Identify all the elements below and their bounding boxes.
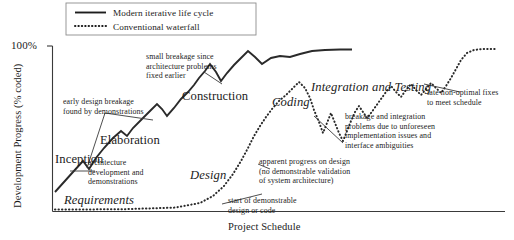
x-axis-title: Project Schedule	[228, 221, 300, 233]
annotation-small-breakage: small breakage since architecture proble…	[146, 52, 217, 81]
annotation-apparent-progress: apparent progress on design (no demonstr…	[259, 157, 350, 186]
y-axis-title: Development Progress (% coded)	[12, 64, 24, 208]
phase-label-integration-and-testing: Integration and Testing	[311, 80, 431, 94]
annotation-late-non-optimal-fixes: late non-optimal fixes to meet schedule	[427, 88, 498, 107]
y-axis-tick-label-100: 100%	[11, 39, 37, 51]
phase-label-requirements: Requirements	[64, 193, 134, 207]
phase-label-elaboration: Elaboration	[100, 133, 160, 147]
annotation-breakage-and-integration: breakage and integration problems due to…	[345, 112, 435, 151]
legend-label-waterfall: Conventional waterfall	[113, 22, 200, 32]
annotation-early-design-breakage: early design breakage found by demonstra…	[63, 97, 144, 116]
figure-canvas: Modern iterative life cycle Conventional…	[0, 0, 514, 240]
legend-label-iterative: Modern iterative life cycle	[113, 8, 213, 18]
phase-label-coding: Coding	[272, 95, 310, 109]
phase-label-construction: Construction	[182, 89, 248, 103]
annotation-architecture-development: architecture development and demonstrati…	[88, 158, 144, 187]
annotation-start-of-demonstrable: start of demonstrable design or code	[228, 196, 297, 215]
phase-label-design: Design	[190, 168, 226, 182]
